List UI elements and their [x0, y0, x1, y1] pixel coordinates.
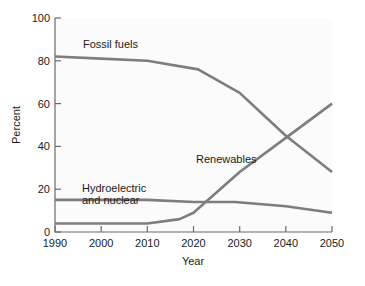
y-tick-label-40: 40	[38, 140, 50, 152]
y-tick-label-20: 20	[38, 183, 50, 195]
series-label-hydro-nuclear-line2: and nuclear	[82, 194, 140, 206]
y-axis-title: Percent	[10, 106, 22, 144]
series-label-hydro-nuclear-line1: Hydroelectric	[82, 182, 147, 194]
y-tick-label-60: 60	[38, 98, 50, 110]
series-label-renewables: Renewables	[196, 153, 257, 165]
y-tick-label-80: 80	[38, 55, 50, 67]
x-axis-title: Year	[182, 255, 205, 267]
x-tick-label-2030: 2030	[227, 237, 251, 249]
energy-mix-line-chart: 100 80 60 40 20 0 1990 2000 2010 2020 20…	[0, 0, 365, 286]
series-label-fossil-fuels: Fossil fuels	[83, 38, 139, 50]
chart-canvas: 100 80 60 40 20 0 1990 2000 2010 2020 20…	[0, 0, 365, 286]
x-tick-label-2050: 2050	[320, 237, 344, 249]
x-tick-label-2040: 2040	[274, 237, 298, 249]
x-tick-label-1990: 1990	[43, 237, 67, 249]
x-tick-label-2000: 2000	[89, 237, 113, 249]
y-tick-label-100: 100	[32, 12, 50, 24]
x-tick-label-2010: 2010	[135, 237, 159, 249]
x-tick-label-2020: 2020	[181, 237, 205, 249]
